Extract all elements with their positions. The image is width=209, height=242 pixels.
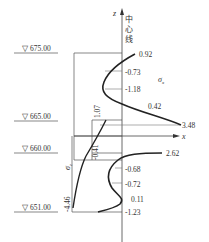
upper-value-neg1.18: -1.18 <box>125 85 141 94</box>
elevation-651: ▽ 651.00 <box>14 203 58 212</box>
svg-text:665.00: 665.00 <box>30 112 51 121</box>
lower-value-neg0.68: -0.68 <box>125 165 141 174</box>
sigma-x-label: σx <box>158 75 165 85</box>
stress-distribution-diagram: ▽ 675.00 ▽ 665.00 ▽ 660.00 ▽ 651.00 z 中 … <box>0 0 209 242</box>
elevation-665: ▽ 665.00 <box>14 112 58 121</box>
sigma-x-curve <box>103 54 181 125</box>
svg-text:▽: ▽ <box>22 203 29 212</box>
lower-value-0.11: 0.11 <box>131 195 144 204</box>
center-line-char-1: 中 <box>125 14 133 24</box>
x-axis-label: x <box>181 132 186 141</box>
center-line-char-3: 线 <box>125 34 133 44</box>
left-value-neg0.41: -0.41 <box>91 144 100 160</box>
elevation-675: ▽ 675.00 <box>14 44 58 53</box>
lower-value-neg0.72: -0.72 <box>125 180 141 189</box>
elevation-660: ▽ 660.00 <box>14 144 58 153</box>
lower-value-2.62: 2.62 <box>166 149 179 158</box>
left-lower-curve <box>73 156 86 208</box>
center-line-char-2: 心 <box>125 25 133 34</box>
z-axis-label: z <box>112 9 117 18</box>
lower-value-neg1.23: -1.23 <box>125 208 141 217</box>
svg-text:▽: ▽ <box>22 112 29 121</box>
svg-text:660.00: 660.00 <box>30 144 51 153</box>
left-value-1.07: 1.07 <box>93 105 102 118</box>
left-value-neg4.46: -4.46 <box>63 196 72 212</box>
upper-value-3.48: 3.48 <box>182 121 195 130</box>
lower-frame <box>72 120 122 212</box>
upper-value-0.92: 0.92 <box>139 50 152 59</box>
sigma-z-label: σz <box>63 164 73 170</box>
upper-value-neg0.73: -0.73 <box>125 68 141 77</box>
svg-text:▽: ▽ <box>22 144 29 153</box>
lower-ticks <box>112 168 122 183</box>
upper-value-0.42: 0.42 <box>148 102 161 111</box>
svg-text:651.00: 651.00 <box>30 203 51 212</box>
x-axis: x <box>74 132 186 141</box>
upper-ticks <box>100 71 180 125</box>
elevation-675-label: ▽ <box>22 44 29 53</box>
svg-text:675.00: 675.00 <box>30 44 51 53</box>
